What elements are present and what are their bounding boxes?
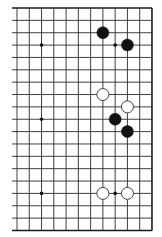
- white-stone: [97, 187, 109, 199]
- black-stone: [97, 27, 109, 39]
- star-point: [40, 192, 44, 196]
- star-point: [113, 192, 117, 196]
- black-stone: [121, 39, 133, 51]
- black-stone: [121, 126, 133, 138]
- go-board[interactable]: [0, 0, 162, 237]
- white-stone: [121, 187, 133, 199]
- black-stone: [109, 113, 121, 125]
- star-point: [40, 117, 44, 121]
- white-stone: [97, 89, 109, 101]
- star-point: [113, 43, 117, 47]
- white-stone: [121, 101, 133, 113]
- star-point: [40, 43, 44, 47]
